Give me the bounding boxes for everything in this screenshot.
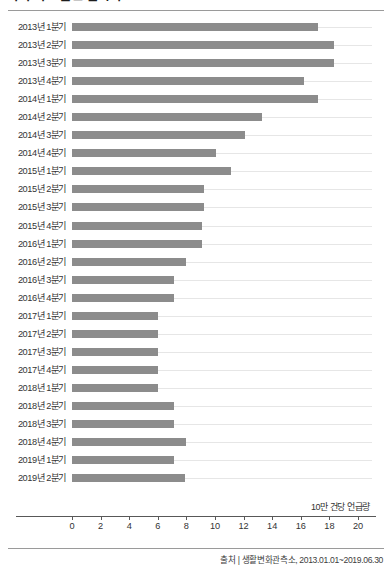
category-label: 2014년 2분기 — [0, 108, 66, 126]
category-label: 2015년 4분기 — [0, 217, 66, 235]
bar-row: 2015년 3분기 — [0, 198, 392, 216]
bar-row: 2017년 1분기 — [0, 307, 392, 325]
bar — [72, 131, 245, 139]
x-axis-tick-mark — [186, 516, 187, 520]
category-label: 2015년 2분기 — [0, 180, 66, 198]
x-axis-tick-label: 6 — [143, 521, 173, 531]
bar-row: 2013년 1분기 — [0, 18, 392, 36]
bar — [72, 456, 174, 464]
bar — [72, 240, 202, 248]
bar — [72, 474, 185, 482]
category-label: 2017년 4분기 — [0, 361, 66, 379]
bar — [72, 23, 318, 31]
plot-area: 2013년 1분기2013년 2분기2013년 3분기2013년 4분기2014… — [0, 18, 392, 498]
bar-row: 2015년 4분기 — [0, 217, 392, 235]
x-axis-tick-mark — [244, 516, 245, 520]
bar — [72, 41, 334, 49]
category-label: 2019년 2분기 — [0, 469, 66, 487]
bar-row: 2014년 2분기 — [0, 108, 392, 126]
x-axis-line — [16, 516, 376, 517]
bar-row: 2016년 1분기 — [0, 235, 392, 253]
bar — [72, 402, 174, 410]
bar-row: 2015년 1분기 — [0, 162, 392, 180]
bar — [72, 276, 174, 284]
category-label: 2014년 4분기 — [0, 144, 66, 162]
category-label: 2013년 4분기 — [0, 72, 66, 90]
x-axis-tick-mark — [158, 516, 159, 520]
bar — [72, 348, 158, 356]
bar-row: 2014년 3분기 — [0, 126, 392, 144]
x-axis-tick-label: 16 — [286, 521, 316, 531]
category-label: 2014년 1분기 — [0, 90, 66, 108]
bar — [72, 438, 186, 446]
bar — [72, 384, 158, 392]
bar-row: 2014년 1분기 — [0, 90, 392, 108]
x-axis-tick-label: 2 — [86, 521, 116, 531]
bar-row: 2016년 2분기 — [0, 253, 392, 271]
bar — [72, 366, 158, 374]
bar — [72, 203, 204, 211]
x-axis-tick-label: 20 — [343, 521, 373, 531]
category-label: 2018년 2분기 — [0, 397, 66, 415]
x-axis-tick-label: 12 — [229, 521, 259, 531]
bar-row: 2013년 4분기 — [0, 72, 392, 90]
bar-chart-figure: 기획 의도 관련 검색어 2013년 1분기2013년 2분기2013년 3분기… — [0, 0, 392, 575]
x-axis-tick-mark — [215, 516, 216, 520]
bar-row: 2018년 3분기 — [0, 415, 392, 433]
category-label: 2018년 3분기 — [0, 415, 66, 433]
title-divider — [8, 10, 384, 11]
bar — [72, 294, 174, 302]
page-title: 기획 의도 관련 검색어 — [6, 0, 386, 3]
bar-row: 2018년 4분기 — [0, 433, 392, 451]
footer-divider — [8, 548, 384, 549]
x-axis-tick-label: 4 — [114, 521, 144, 531]
bar — [72, 258, 186, 266]
bar-row: 2019년 1분기 — [0, 451, 392, 469]
x-axis-tick-mark — [72, 516, 73, 520]
bar — [72, 185, 204, 193]
bar — [72, 149, 216, 157]
bar-row: 2018년 2분기 — [0, 397, 392, 415]
bar-row: 2017년 3분기 — [0, 343, 392, 361]
bar-row: 2019년 2분기 — [0, 469, 392, 487]
bar — [72, 59, 334, 67]
category-label: 2018년 4분기 — [0, 433, 66, 451]
bar-row: 2016년 3분기 — [0, 271, 392, 289]
bar — [72, 330, 158, 338]
x-axis-unit-label: 10만 건당 언급량 — [311, 500, 370, 513]
bar-row: 2018년 1분기 — [0, 379, 392, 397]
category-label: 2016년 4분기 — [0, 289, 66, 307]
x-axis-tick-mark — [101, 516, 102, 520]
bar — [72, 222, 202, 230]
bar-row: 2013년 3분기 — [0, 54, 392, 72]
category-label: 2018년 1분기 — [0, 379, 66, 397]
category-label: 2016년 2분기 — [0, 253, 66, 271]
bar — [72, 77, 304, 85]
x-axis-tick-mark — [358, 516, 359, 520]
category-label: 2019년 1분기 — [0, 451, 66, 469]
chart-title-container: 기획 의도 관련 검색어 — [6, 0, 386, 7]
category-label: 2017년 3분기 — [0, 343, 66, 361]
category-label: 2017년 1분기 — [0, 307, 66, 325]
category-label: 2016년 1분기 — [0, 235, 66, 253]
category-label: 2014년 3분기 — [0, 126, 66, 144]
x-axis-tick-mark — [272, 516, 273, 520]
category-label: 2016년 3분기 — [0, 271, 66, 289]
bar-row: 2017년 4분기 — [0, 361, 392, 379]
bar — [72, 312, 158, 320]
x-axis-tick-mark — [329, 516, 330, 520]
x-axis-tick-label: 0 — [57, 521, 87, 531]
category-label: 2015년 3분기 — [0, 198, 66, 216]
category-label: 2015년 1분기 — [0, 162, 66, 180]
bar — [72, 113, 262, 121]
bar — [72, 95, 318, 103]
x-axis-tick-label: 18 — [314, 521, 344, 531]
x-axis-tick-mark — [301, 516, 302, 520]
x-axis-tick-label: 8 — [171, 521, 201, 531]
category-label: 2013년 2분기 — [0, 36, 66, 54]
bar-row: 2016년 4분기 — [0, 289, 392, 307]
x-axis-tick-label: 14 — [257, 521, 287, 531]
source-note: 출처 | 생활변화관측소, 2013.01.01~2019.06.30 — [220, 553, 383, 565]
bar — [72, 420, 174, 428]
x-axis-tick-label: 10 — [200, 521, 230, 531]
